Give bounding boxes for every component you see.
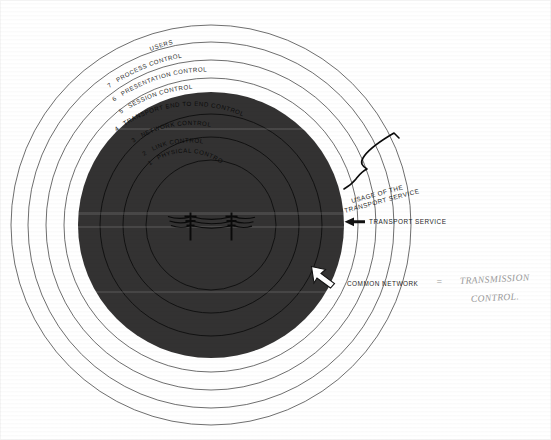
handwritten-equals-sign: =	[436, 277, 443, 287]
osi-concentric-diagram: USERS 7 PROCESS CONTROL 6 PRESENTATION C…	[0, 0, 551, 440]
ring-layer-4-disc	[78, 92, 344, 358]
dark-disc-group	[78, 92, 344, 358]
common-network-label: COMMON NETWORK	[347, 280, 418, 287]
diagram-page: { "document": { "title": "Layered Archit…	[0, 0, 551, 440]
transport-service-label: TRANSPORT SERVICE	[369, 218, 446, 225]
